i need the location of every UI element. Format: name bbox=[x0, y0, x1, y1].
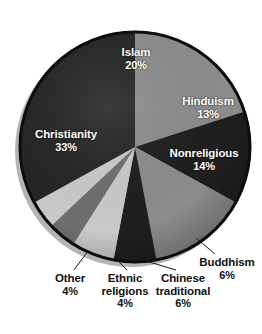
slice-label-other-name: Other bbox=[46, 272, 94, 285]
slice-label-ethnic-religions-line1: Ethnic bbox=[95, 272, 155, 285]
slice-label-buddhism-pct: 6% bbox=[196, 269, 258, 281]
slice-label-buddhism-name: Buddhism bbox=[196, 256, 258, 269]
slice-label-other-pct: 4% bbox=[46, 285, 94, 297]
slice-label-buddhism: Buddhism 6% bbox=[196, 256, 258, 281]
leader-line-buddhism bbox=[196, 238, 215, 254]
slice-label-other: Other 4% bbox=[46, 272, 94, 297]
pie-chart: Islam 20% Hinduism 13% Nonreligious 14% … bbox=[0, 0, 262, 334]
slice-label-ethnic-religions-pct: 4% bbox=[95, 297, 155, 309]
slice-label-ethnic-religions-line2: religions bbox=[95, 285, 155, 298]
slice-label-chinese-traditional-line2: traditional bbox=[150, 285, 216, 298]
slice-label-ethnic-religions: Ethnic religions 4% bbox=[95, 272, 155, 309]
slice-label-chinese-traditional-pct: 6% bbox=[150, 297, 216, 309]
